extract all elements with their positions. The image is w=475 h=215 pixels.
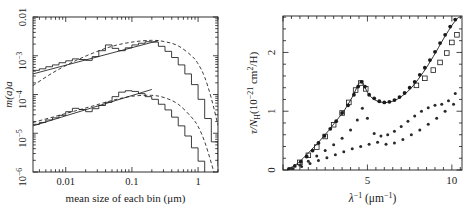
svg-text:10−4: 10−4 [15,90,28,109]
svg-text:2: 2 [265,50,277,56]
svg-text:τ/NH(10−21 cm2/H): τ/NH(10−21 cm2/H) [246,52,262,135]
size-distribution-svg: 0.010.110.0110−310−410−510−6mean size of… [0,0,236,215]
x-tick-label: 0.1 [125,176,138,187]
upper-powerlaw-line [33,41,158,74]
y-tick-label: 10−6 [15,168,28,187]
size-distribution-panel: 0.010.110.0110−310−410−510−6mean size of… [0,0,236,215]
svg-text:λ−1 (μm−1): λ−1 (μm−1) [348,191,397,205]
figure-container: 0.010.110.0110−310−410−510−6mean size of… [0,0,475,215]
left-axes-group [33,17,218,172]
svg-text:m(a)a: m(a)a [2,81,15,108]
svg-text:10−5: 10−5 [15,129,28,148]
x-axis-title: mean size of each bin (μm) [66,192,186,205]
y-axis-title: τ/NH(10−21 cm2/H) [246,52,262,135]
svg-text:10−6: 10−6 [15,168,28,187]
y-tick-label: 10−5 [15,129,28,148]
x-tick-label: 0.01 [57,176,75,187]
lower-histogram [33,91,225,208]
x-tick-label: 5 [365,174,371,186]
right-data-group [287,17,459,171]
upper-dashed-model [33,40,218,125]
svg-text:0.01: 0.01 [17,8,28,26]
y-tick-label: 10−4 [15,90,28,109]
graphite-component-points [292,103,455,171]
x-tick-label: 1 [195,176,200,187]
y-tick-label: 10−3 [15,52,28,71]
lower-dashed-model [33,95,218,187]
y-tick-label: 1 [265,108,277,114]
extinction-curve-panel: 510012λ−1 (μm−1)τ/NH(10−21 cm2/H) [240,0,475,215]
y-tick-label: 0.01 [17,8,28,26]
svg-text:0: 0 [265,167,277,173]
x-axis-title: λ−1 (μm−1) [348,191,397,205]
y-axis-title: m(a)a [2,81,15,108]
lower-powerlaw-line [33,89,152,125]
y-tick-label: 0 [265,167,277,173]
y-tick-label: 2 [265,50,277,56]
observed-extinction-filled-points [287,18,457,171]
silicate-component-points [290,92,457,170]
svg-text:10−3: 10−3 [15,52,28,71]
left-labels-group: 0.010.110.0110−310−410−510−6mean size of… [2,8,201,205]
right-axes-group [283,16,462,170]
total-extinction-model-curve [288,17,459,169]
x-tick-label: 10 [446,174,458,186]
svg-text:1: 1 [265,108,277,114]
right-labels-group: 510012λ−1 (μm−1)τ/NH(10−21 cm2/H) [246,50,458,205]
extinction-curve-svg: 510012λ−1 (μm−1)τ/NH(10−21 cm2/H) [240,0,475,215]
